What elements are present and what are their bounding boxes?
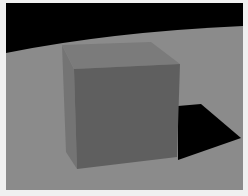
render-viewport xyxy=(0,0,248,196)
cube-front-face xyxy=(74,64,180,169)
render-area xyxy=(6,3,243,190)
